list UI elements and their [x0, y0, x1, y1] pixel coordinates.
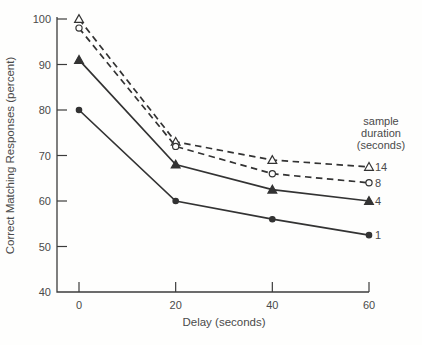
- figure: 4050607080901000204060Delay (seconds)Cor…: [0, 0, 422, 345]
- circle-filled-marker: [76, 107, 81, 112]
- circle-open-marker: [366, 180, 372, 186]
- x-tick-label: 60: [363, 299, 375, 311]
- series-label-1: 1: [375, 229, 381, 241]
- series-label-4: 4: [375, 195, 381, 207]
- x-tick-label: 0: [76, 299, 82, 311]
- legend-title-line: duration: [361, 127, 401, 139]
- y-tick-label: 80: [39, 104, 51, 116]
- series-line-14: [79, 19, 369, 167]
- y-tick-label: 60: [39, 195, 51, 207]
- circle-filled-marker: [270, 217, 275, 222]
- series-line-8: [79, 28, 369, 183]
- x-axis-label: Delay (seconds): [182, 316, 265, 328]
- x-tick-label: 40: [266, 299, 278, 311]
- line-chart: 4050607080901000204060Delay (seconds)Cor…: [0, 0, 422, 345]
- triangle-open-marker: [75, 15, 84, 23]
- circle-open-marker: [269, 171, 275, 177]
- triangle-filled-marker: [75, 56, 84, 64]
- legend-title-line: (seconds): [357, 139, 405, 151]
- circle-open-marker: [76, 25, 82, 31]
- series-label-14: 14: [375, 161, 387, 173]
- circle-filled-marker: [366, 232, 371, 237]
- legend-title-line: sample: [363, 115, 398, 127]
- x-tick-label: 20: [170, 299, 182, 311]
- y-tick-label: 70: [39, 150, 51, 162]
- series-line-1: [79, 110, 369, 235]
- y-axis-label: Correct Matching Responses (percent): [4, 57, 16, 255]
- y-tick-label: 90: [39, 59, 51, 71]
- y-tick-label: 50: [39, 241, 51, 253]
- series-label-8: 8: [375, 177, 381, 189]
- circle-filled-marker: [173, 198, 178, 203]
- circle-open-marker: [173, 143, 179, 149]
- triangle-open-marker: [365, 162, 374, 170]
- y-tick-label: 100: [33, 13, 51, 25]
- y-tick-label: 40: [39, 286, 51, 298]
